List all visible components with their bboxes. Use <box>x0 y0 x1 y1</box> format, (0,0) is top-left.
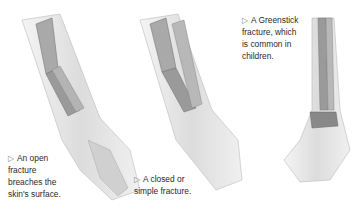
triangle-marker-icon: ▷ <box>242 15 248 25</box>
closed-fracture-arm <box>140 14 242 190</box>
caption-closed-fracture: ▷A closed or simple fracture. <box>134 173 191 197</box>
triangle-marker-icon: ▷ <box>8 153 14 163</box>
caption-open-fracture: ▷An open fracture breaches the skin's su… <box>8 152 61 200</box>
caption-greenstick-fracture: ▷A Greenstick fracture, which is common … <box>242 14 298 62</box>
triangle-marker-icon: ▷ <box>134 174 140 184</box>
